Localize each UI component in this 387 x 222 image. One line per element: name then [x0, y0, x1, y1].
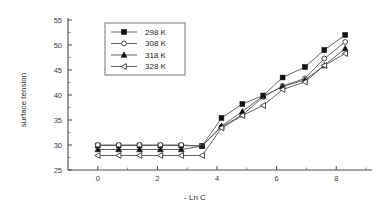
- y-tick-label: 45: [54, 66, 62, 75]
- chart-figure: 25303540455055 02468 surface tension - L…: [0, 0, 387, 222]
- data-point: [322, 48, 327, 53]
- y-axis-ticks: 25303540455055: [54, 16, 72, 175]
- surface-tension-plot: 25303540455055 02468 surface tension - L…: [0, 0, 387, 222]
- data-point: [95, 153, 100, 159]
- legend-label: 308 K: [145, 39, 167, 48]
- y-axis-title: surface tension: [19, 73, 28, 127]
- data-point: [343, 40, 348, 45]
- data-point: [199, 153, 204, 159]
- y-tick-label: 50: [54, 41, 62, 50]
- data-point: [322, 56, 327, 61]
- legend-label: 298 K: [145, 28, 167, 37]
- data-point: [343, 33, 348, 38]
- data-point: [116, 153, 121, 159]
- y-tick-label: 40: [54, 91, 62, 100]
- y-tick-label: 30: [54, 141, 62, 150]
- y-tick-label: 35: [54, 116, 62, 125]
- legend: 298 K308 K318 K328 K: [105, 23, 185, 75]
- data-point: [137, 153, 142, 159]
- legend-label: 328 K: [145, 62, 167, 71]
- legend-marker: [122, 41, 127, 46]
- data-point: [342, 51, 347, 57]
- legend-marker: [122, 30, 127, 35]
- data-point: [178, 153, 183, 159]
- y-tick-label: 55: [54, 16, 62, 25]
- x-axis-ticks: 02468: [96, 166, 366, 183]
- x-axis-title: - Ln C: [184, 193, 206, 202]
- data-point: [219, 116, 224, 121]
- legend-label: 318 K: [145, 51, 167, 60]
- x-tick-label: 8: [334, 174, 338, 183]
- x-tick-label: 4: [215, 174, 219, 183]
- data-point: [342, 46, 348, 51]
- data-point: [303, 65, 308, 70]
- data-point: [280, 75, 285, 80]
- y-tick-label: 25: [54, 166, 62, 175]
- x-tick-label: 2: [155, 174, 159, 183]
- x-tick-label: 6: [275, 174, 279, 183]
- data-point: [157, 153, 162, 159]
- x-tick-label: 0: [96, 174, 100, 183]
- data-point: [240, 102, 245, 107]
- data-point: [260, 103, 265, 109]
